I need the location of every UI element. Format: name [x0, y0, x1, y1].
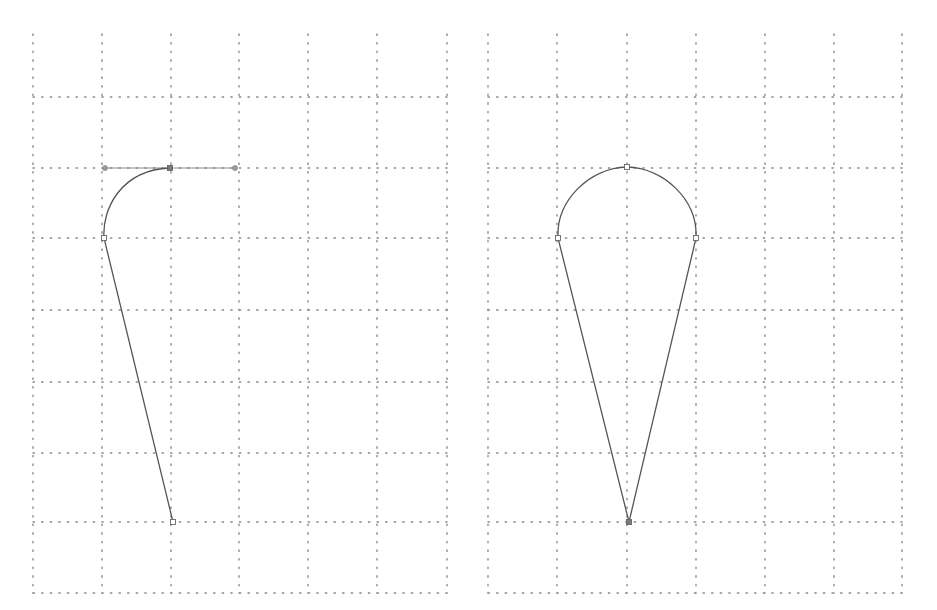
left-panel-pen-in-progress[interactable] — [33, 34, 447, 593]
anchor-point[interactable] — [171, 520, 176, 525]
drop-half-path[interactable] — [104, 168, 173, 522]
anchor-point[interactable] — [694, 236, 699, 241]
bezier-handle-point[interactable] — [232, 165, 237, 170]
anchor-point[interactable] — [168, 166, 173, 171]
anchor-point[interactable] — [556, 236, 561, 241]
right-panel-completed-teardrop[interactable] — [488, 34, 902, 593]
grid-left — [33, 34, 447, 593]
anchor-point[interactable] — [627, 520, 632, 525]
grid-right — [488, 34, 902, 593]
anchor-points-left[interactable] — [102, 166, 176, 525]
bezier-handle-point[interactable] — [102, 165, 107, 170]
drawing-canvas[interactable] — [0, 0, 937, 610]
anchor-point[interactable] — [102, 236, 107, 241]
anchor-point[interactable] — [625, 165, 630, 170]
